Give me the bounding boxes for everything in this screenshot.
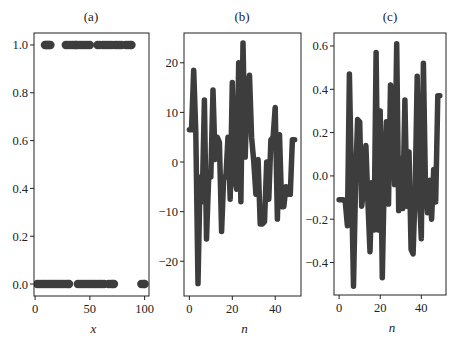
y-tick-label: 1.0 — [12, 38, 28, 52]
x-tick-label: 100 — [135, 302, 154, 316]
x-tick-label: 0 — [186, 302, 192, 316]
x-axis-label: x — [90, 321, 97, 336]
x-tick-label: 40 — [269, 302, 282, 316]
x-tick-label: 20 — [226, 302, 239, 316]
figure: (a)0501000.00.20.40.60.81.0x (b)02040−20… — [0, 0, 458, 346]
y-tick-label: 0.2 — [12, 230, 28, 244]
scatter-point — [110, 280, 118, 288]
y-tick-label: −0.2 — [305, 213, 328, 227]
line-series — [339, 44, 440, 286]
y-tick-label: 0.0 — [312, 169, 328, 183]
scatter-point — [65, 280, 73, 288]
x-tick-label: 40 — [415, 301, 428, 315]
y-tick-label: 0.6 — [312, 39, 328, 53]
x-tick-label: 50 — [84, 302, 97, 316]
scatter-point — [127, 41, 135, 49]
x-tick-label: 20 — [374, 301, 387, 315]
panel-title: (c) — [383, 9, 397, 24]
panel-title: (b) — [234, 9, 249, 24]
y-tick-label: −0.4 — [305, 256, 328, 270]
x-axis-label: n — [241, 321, 248, 336]
panel-a: (a)0501000.00.20.40.60.81.0x — [12, 9, 154, 336]
scatter-point — [46, 41, 54, 49]
y-tick-label: 0.4 — [12, 182, 28, 196]
x-axis-label: n — [389, 320, 396, 335]
y-tick-label: 10 — [166, 106, 179, 120]
y-tick-label: −20 — [158, 255, 178, 269]
y-tick-label: 0 — [172, 156, 178, 170]
x-tick-label: 0 — [32, 302, 38, 316]
y-tick-label: 0.4 — [312, 83, 328, 97]
y-tick-label: −10 — [158, 205, 178, 219]
y-tick-label: 0.0 — [12, 278, 28, 292]
data-series — [33, 41, 149, 288]
data-series — [189, 43, 294, 284]
panel-c: (c)02040−0.4−0.20.00.20.40.6n — [305, 9, 446, 335]
line-series — [189, 43, 294, 284]
scatter-point — [140, 280, 148, 288]
x-tick-label: 0 — [336, 301, 342, 315]
data-series — [339, 44, 440, 286]
y-tick-label: 0.8 — [12, 86, 28, 100]
scatter-point — [86, 41, 94, 49]
y-tick-label: 20 — [166, 56, 179, 70]
panel-title: (a) — [84, 9, 98, 24]
y-tick-label: 0.6 — [12, 134, 28, 148]
y-tick-label: 0.2 — [312, 126, 328, 140]
panel-b: (b)02040−20−1001020n — [158, 9, 301, 336]
axes-frame — [34, 33, 149, 296]
